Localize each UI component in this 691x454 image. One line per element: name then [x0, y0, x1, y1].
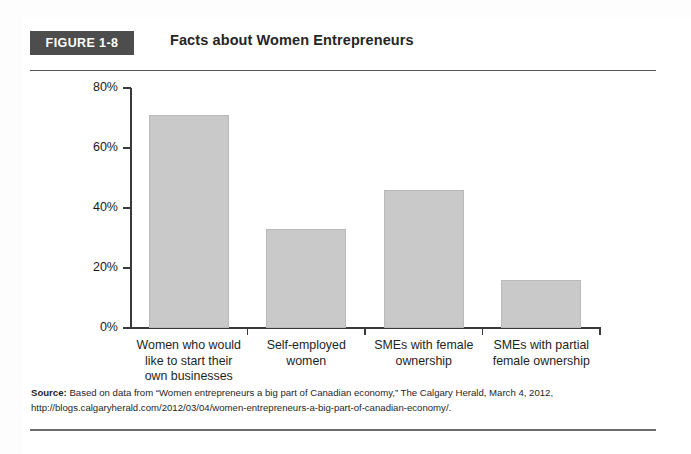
y-axis-tick-label: 40% [74, 200, 118, 214]
category-label-line: ownership [396, 354, 452, 368]
y-axis-tick [123, 87, 131, 89]
source-text: Based on data from “Women entrepreneurs … [31, 387, 553, 413]
category-label-line: SMEs with partial [493, 338, 589, 352]
bar [384, 190, 464, 328]
category-label: SMEs with femaleownership [367, 338, 481, 369]
bar [501, 280, 581, 328]
y-axis-tick [123, 147, 131, 149]
category-label-line: women [286, 354, 326, 368]
x-axis-tick [364, 327, 366, 335]
source-label: Source: [31, 387, 67, 398]
bar [149, 115, 229, 328]
y-axis-tick-label: 20% [74, 260, 118, 274]
category-label: Self-employedwomen [250, 338, 364, 369]
bar [266, 229, 346, 328]
bottom-divider [30, 429, 656, 431]
category-label-line: Women who would [137, 338, 241, 352]
y-axis-tick [123, 207, 131, 209]
category-label-line: like to start their [145, 354, 232, 368]
y-axis-tick-label: 80% [74, 80, 118, 94]
figure-container: FIGURE 1-8 Facts about Women Entrepreneu… [0, 0, 691, 454]
category-label-line: Self-employed [267, 338, 346, 352]
source-note: Source: Based on data from “Women entrep… [31, 386, 665, 415]
x-axis-tick [482, 327, 484, 335]
y-axis-tick-label: 0% [74, 320, 118, 334]
category-label-line: female ownership [493, 354, 590, 368]
category-label-line: own businesses [145, 369, 233, 383]
y-axis-tick [123, 327, 131, 329]
category-label: SMEs with partialfemale ownership [485, 338, 599, 369]
category-label-line: SMEs with female [374, 338, 473, 352]
x-axis-tick [247, 327, 249, 335]
y-axis-tick [123, 267, 131, 269]
x-axis-tick [599, 327, 601, 335]
category-label: Women who wouldlike to start theirown bu… [132, 338, 246, 385]
y-axis-tick-label: 60% [74, 140, 118, 154]
